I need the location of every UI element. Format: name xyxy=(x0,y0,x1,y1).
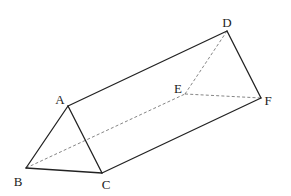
edge-df xyxy=(227,31,261,98)
edge-bc xyxy=(26,168,102,173)
vertex-label-a: A xyxy=(55,92,65,107)
edge-be xyxy=(26,94,185,168)
edge-ab xyxy=(26,106,68,168)
vertex-label-c: C xyxy=(102,177,111,192)
vertex-label-d: D xyxy=(222,15,231,30)
vertex-label-b: B xyxy=(14,174,23,189)
vertex-label-f: F xyxy=(264,93,271,108)
edge-ef xyxy=(185,94,261,98)
edge-ac xyxy=(68,106,102,173)
vertex-label-e: E xyxy=(174,81,182,96)
edge-cf xyxy=(102,98,261,173)
prism-diagram: A B C D E F xyxy=(0,0,291,196)
